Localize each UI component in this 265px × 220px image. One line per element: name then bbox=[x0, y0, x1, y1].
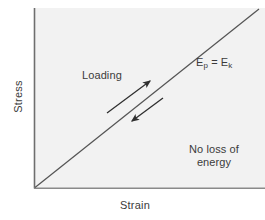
energy-potential-subscript: p bbox=[203, 61, 208, 70]
no-loss-annotation: No loss of energy bbox=[176, 143, 252, 169]
energy-kinetic-subscript: k bbox=[228, 61, 232, 70]
y-axis-label: Stress bbox=[12, 66, 25, 126]
x-axis-label: Strain bbox=[95, 199, 175, 212]
energy-equation-annotation: Ep = Ek bbox=[196, 56, 232, 69]
plot-canvas bbox=[0, 0, 265, 220]
energy-equals-symbol: = E bbox=[208, 56, 228, 68]
stress-strain-figure: Stress Strain Loading Ep = Ek No loss of… bbox=[0, 0, 265, 220]
loading-annotation: Loading bbox=[82, 69, 122, 82]
